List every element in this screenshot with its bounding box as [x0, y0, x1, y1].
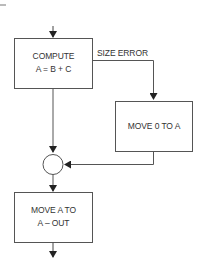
compute-line-2: A = B + C: [14, 63, 93, 76]
move-out-box-label: MOVE A TO A – OUT: [14, 204, 93, 230]
junction-circle: [43, 155, 63, 175]
move-zero-box-label: MOVE 0 TO A: [115, 120, 193, 133]
size-error-label: SIZE ERROR: [97, 48, 148, 58]
move-zero-to-junction-line: [65, 152, 154, 165]
move-out-line-1: MOVE A TO: [14, 204, 93, 217]
move-out-line-2: A – OUT: [14, 217, 93, 230]
compute-line-1: COMPUTE: [14, 50, 93, 63]
size-error-connector: [93, 61, 154, 100]
compute-box-label: COMPUTE A = B + C: [14, 50, 93, 76]
move-zero-line-1: MOVE 0 TO A: [115, 120, 193, 133]
